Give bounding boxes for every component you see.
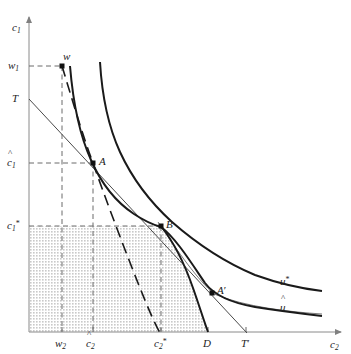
y-tick-label-c1-star: c1* bbox=[7, 220, 20, 231]
marker-A-prime bbox=[210, 291, 215, 296]
point-label-A: A bbox=[99, 156, 106, 167]
marker-A bbox=[91, 161, 96, 166]
marker-w bbox=[60, 64, 65, 69]
y-axis-label: c1 bbox=[12, 22, 21, 33]
figure-canvas: c1 c2 w1 T ^ c1 c1* w2 ^ c2 c2* D T′ w bbox=[0, 0, 351, 354]
shaded-feasible-region bbox=[29, 226, 208, 332]
x-tick-label-c2-hat: ^ c2 bbox=[86, 338, 95, 349]
x-tick-label-T-prime: T′ bbox=[241, 338, 250, 349]
y-tick-label-T: T bbox=[12, 93, 18, 104]
x-tick-label-c2-star: c2* bbox=[154, 338, 167, 349]
x-tick-label-w2: w2 bbox=[55, 338, 66, 349]
curve-label-u-hat: ^ u bbox=[280, 302, 286, 313]
y-tick-label-c1-hat: ^ c1 bbox=[7, 157, 16, 168]
diagram-svg bbox=[0, 0, 351, 354]
point-label-B: B bbox=[166, 219, 173, 230]
x-tick-label-D: D bbox=[203, 338, 211, 349]
y-tick-label-w1: w1 bbox=[8, 60, 19, 71]
x-axis-label: c2 bbox=[330, 339, 339, 350]
marker-B bbox=[159, 224, 164, 229]
point-label-A-prime: A′ bbox=[217, 285, 226, 296]
point-label-w: w bbox=[63, 51, 70, 62]
curve-label-u-star: u* bbox=[280, 276, 290, 287]
